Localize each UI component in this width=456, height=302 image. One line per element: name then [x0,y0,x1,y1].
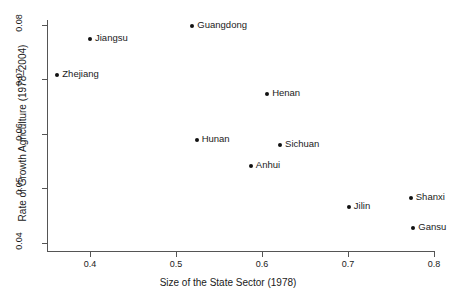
data-point-label: Zhejiang [62,68,98,79]
y-axis-title-container: Rate of Growth Agriculture (1978–2004) [17,13,31,253]
scatter-plot-figure: 0.040.050.060.070.08 0.40.50.60.70.8 Zhe… [0,0,456,302]
y-axis-title: Rate of Growth Agriculture (1978–2004) [17,13,28,253]
x-tick-label: 0.6 [242,259,282,269]
x-tick-label: 0.7 [328,259,368,269]
data-point [249,164,253,168]
data-point [347,205,351,209]
data-point-label: Hunan [202,133,230,144]
data-point [195,138,199,142]
data-point-label: Henan [272,87,300,98]
data-point-label: Gansu [418,221,446,232]
x-tick-label: 0.4 [70,259,110,269]
plot-area: 0.040.050.060.070.08 0.40.50.60.70.8 Zhe… [0,0,456,302]
data-point-label: Guangdong [197,19,247,30]
data-point-label: Shanxi [416,191,445,202]
x-tick-mark [90,252,91,257]
data-point [265,92,269,96]
data-point [190,24,194,28]
data-point [55,73,59,77]
data-point-label: Anhui [256,159,280,170]
y-tick-mark [42,25,47,26]
data-point [409,196,413,200]
data-point [278,143,282,147]
data-point [88,37,92,41]
y-axis-line [47,20,48,252]
x-tick-label: 0.5 [156,259,196,269]
y-tick-mark [42,79,47,80]
data-point-label: Sichuan [285,138,319,149]
x-tick-label: 0.8 [414,259,454,269]
x-axis-line [47,251,435,252]
y-tick-mark [42,134,47,135]
x-tick-mark [348,252,349,257]
x-axis-title: Size of the State Sector (1978) [0,277,456,288]
x-tick-mark [262,252,263,257]
data-point-label: Jiangsu [95,32,128,43]
y-tick-mark [42,188,47,189]
data-point [411,226,415,230]
y-tick-mark [42,243,47,244]
data-point-label: Jilin [354,200,370,211]
x-tick-mark [434,252,435,257]
x-tick-mark [176,252,177,257]
